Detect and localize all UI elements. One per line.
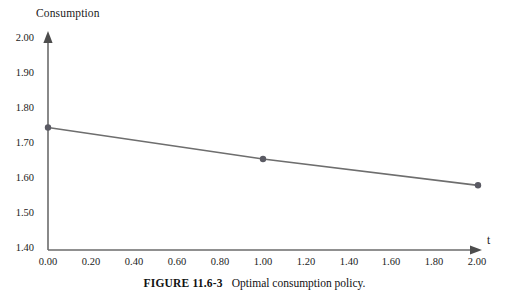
x-axis-title: t bbox=[487, 234, 490, 247]
y-tick-label: 1.50 bbox=[4, 207, 34, 219]
y-axis-arrow-icon bbox=[43, 31, 52, 43]
x-tick-label: 0.60 bbox=[157, 256, 197, 268]
x-tick-label: 1.80 bbox=[414, 256, 454, 268]
x-tick-label: 1.20 bbox=[286, 256, 326, 268]
consumption-line-chart bbox=[0, 0, 509, 270]
x-tick-label: 1.00 bbox=[243, 256, 283, 268]
figure-caption-label: FIGURE 11.6-3 bbox=[143, 277, 222, 289]
data-point-marker bbox=[260, 156, 266, 162]
y-tick-label: 2.00 bbox=[4, 32, 34, 44]
x-tick-label: 0.20 bbox=[71, 256, 111, 268]
chart-axes bbox=[43, 31, 482, 255]
y-tick-label: 1.90 bbox=[4, 67, 34, 79]
x-tick-label: 0.00 bbox=[28, 256, 68, 268]
figure-container: Consumption t 2.00 1.90 1.80 1.70 1.60 1… bbox=[0, 0, 509, 301]
series-optimal-consumption bbox=[45, 124, 481, 188]
x-tick-label: 0.40 bbox=[114, 256, 154, 268]
x-tick-label: 1.60 bbox=[371, 256, 411, 268]
y-axis-title: Consumption bbox=[36, 6, 100, 20]
figure-caption: FIGURE 11.6-3Optimal consumption policy. bbox=[0, 276, 509, 291]
x-tick-label: 0.80 bbox=[200, 256, 240, 268]
y-tick-label: 1.40 bbox=[4, 242, 34, 254]
y-tick-label: 1.70 bbox=[4, 137, 34, 149]
x-tick-label: 2.00 bbox=[457, 256, 497, 268]
x-tick-label: 1.40 bbox=[329, 256, 369, 268]
y-tick-label: 1.60 bbox=[4, 172, 34, 184]
x-axis-arrow-icon bbox=[470, 245, 482, 254]
y-tick-label: 1.80 bbox=[4, 102, 34, 114]
data-point-marker bbox=[475, 182, 481, 188]
data-point-marker bbox=[45, 124, 51, 130]
figure-caption-text: Optimal consumption policy. bbox=[232, 277, 366, 289]
